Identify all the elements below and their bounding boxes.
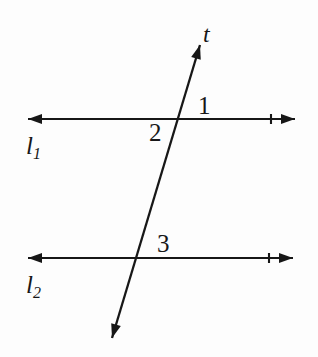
line-label-l1: l1 [26,133,41,162]
line-label-l2-letter: l [26,271,33,298]
line-label-l2-subscript: 2 [33,284,41,301]
line-l2-left-arrowhead [28,253,42,263]
angle-label-1: 1 [198,93,211,118]
line-l1-left-arrowhead [28,114,42,124]
line-l1-right-arrowhead [281,114,295,124]
transversal-label-t: t [203,22,210,46]
transversal-line-group [111,45,201,338]
line-l2-right-arrowhead [279,253,293,263]
transversal-top-arrowhead [191,45,201,60]
angle-label-3: 3 [157,231,170,256]
line-label-l2: l2 [26,272,41,301]
line-label-l1-subscript: 1 [33,145,41,162]
line-l1-group [28,114,295,124]
transversal-bottom-arrowhead [111,323,121,338]
geometry-canvas [0,0,318,357]
angle-label-2: 2 [149,120,162,145]
line-label-l1-letter: l [26,132,33,159]
transversal-line-t [112,45,200,338]
geometry-figure: t l1 l2 1 2 3 [0,0,318,357]
